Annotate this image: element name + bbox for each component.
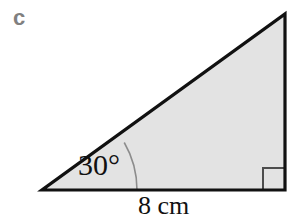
angle-measure-label: 30° xyxy=(78,149,120,181)
base-length-label: 8 cm xyxy=(138,192,189,220)
triangle-figure xyxy=(0,0,296,223)
part-label: c xyxy=(13,5,25,31)
